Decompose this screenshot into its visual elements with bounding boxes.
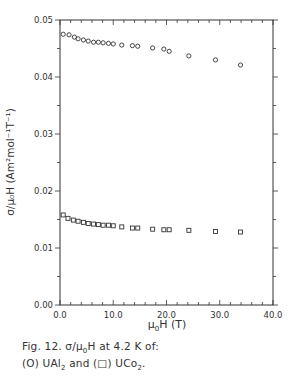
x-axis-label: μ0H (T) <box>148 318 187 333</box>
axis-ticks <box>55 20 278 305</box>
circle-marker <box>213 58 217 62</box>
square-marker <box>71 218 75 222</box>
series-uco2 <box>61 213 242 234</box>
square-marker <box>66 216 70 220</box>
square-marker <box>106 223 110 227</box>
circle-marker <box>162 47 166 51</box>
circle-marker <box>130 44 134 48</box>
y-tick-label: 0.02 <box>34 186 53 196</box>
square-marker <box>61 213 65 217</box>
data-points <box>61 32 243 234</box>
scatter-chart: 0.010.020.030.040.00.000.010.020.030.040… <box>0 0 298 335</box>
square-marker <box>111 224 115 228</box>
caption-line-1: Fig. 12. σ/μ0H at 4.2 K of: <box>22 340 159 357</box>
circle-marker <box>136 44 140 48</box>
square-marker <box>167 228 171 232</box>
square-marker <box>92 222 96 226</box>
circle-marker <box>81 38 85 42</box>
circle-marker <box>61 32 65 36</box>
square-marker <box>187 228 191 232</box>
series-ual2 <box>61 32 243 67</box>
circle-marker <box>151 46 155 50</box>
square-marker <box>96 223 100 227</box>
circle-marker <box>101 41 105 45</box>
square-marker <box>213 229 217 233</box>
y-tick-label: 0.03 <box>34 129 53 139</box>
circle-marker <box>167 49 171 53</box>
x-tick-label: 0.0 <box>53 310 67 320</box>
y-tick-label: 0.05 <box>34 15 53 25</box>
circle-marker <box>76 37 80 41</box>
x-tick-label: 10.0 <box>104 310 123 320</box>
square-marker <box>101 223 105 227</box>
square-marker <box>136 226 140 230</box>
x-tick-label: 40.0 <box>264 310 283 320</box>
x-tick-label: 30.0 <box>210 310 229 320</box>
circle-marker <box>187 54 191 58</box>
circle-marker <box>120 43 124 47</box>
tick-labels: 0.010.020.030.040.00.000.010.020.030.040… <box>34 15 282 320</box>
y-tick-label: 0.01 <box>34 243 53 253</box>
square-marker <box>120 225 124 229</box>
y-axis-label: σ/μ₀H (Am²mol⁻¹T⁻¹) <box>4 108 16 216</box>
square-marker <box>76 219 80 223</box>
square-marker <box>81 220 85 224</box>
circle-marker <box>96 40 100 44</box>
square-marker <box>86 221 90 225</box>
caption-line-2: (O) UAl2 and (□) UCo2. <box>22 357 159 374</box>
circle-marker <box>86 39 90 43</box>
square-marker <box>162 228 166 232</box>
square-marker <box>239 230 243 234</box>
circle-marker <box>67 33 71 37</box>
figure-caption: Fig. 12. σ/μ0H at 4.2 K of: (O) UAl2 and… <box>22 340 159 374</box>
circle-marker <box>91 40 95 44</box>
square-marker <box>151 227 155 231</box>
circle-marker <box>238 63 242 67</box>
square-marker <box>130 226 134 230</box>
y-tick-label: 0.04 <box>34 72 53 82</box>
y-tick-label: 0.00 <box>34 300 53 310</box>
circle-marker <box>111 42 115 46</box>
circle-marker <box>106 41 110 45</box>
